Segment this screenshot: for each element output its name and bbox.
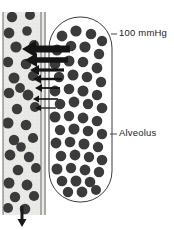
red-blood-cell <box>12 104 22 114</box>
diffusion-arrow-shaft <box>42 87 60 89</box>
red-blood-cell <box>24 152 34 162</box>
red-blood-cell <box>28 133 38 143</box>
oxygen-molecule <box>70 150 81 161</box>
oxygen-molecule <box>55 99 66 110</box>
red-blood-cell <box>7 12 17 22</box>
oxygen-molecule <box>55 125 65 135</box>
red-blood-cell <box>15 83 25 93</box>
pulmonary-capillary <box>3 10 47 227</box>
oxygen-molecule <box>96 77 106 87</box>
diffusion-arrow-shaft <box>39 98 58 100</box>
oxygen-molecule <box>97 155 108 166</box>
alveolus-label: Alveolus <box>119 127 157 138</box>
diffusion-arrow-shaft <box>37 57 68 63</box>
oxygen-molecule <box>50 112 61 123</box>
oxygen-molecule <box>94 49 104 59</box>
oxygen-molecule <box>93 142 103 152</box>
red-blood-cell <box>31 163 41 173</box>
red-blood-cell <box>9 73 20 84</box>
red-blood-cell <box>29 191 39 201</box>
red-blood-cell <box>4 178 15 189</box>
oxygen-molecule <box>97 36 107 46</box>
label-pressure-group: 100 mmHg <box>111 27 167 38</box>
oxygen-molecule <box>66 163 76 173</box>
oxygen-molecule <box>79 41 90 52</box>
oxygen-molecule <box>63 187 73 197</box>
oxygen-molecule <box>65 137 76 148</box>
alveolus-sac <box>49 17 112 202</box>
diffusion-arrow-shaft <box>39 68 64 71</box>
red-blood-cell <box>16 142 26 152</box>
oxygen-molecule <box>83 126 94 137</box>
oxygen-molecule <box>71 176 82 187</box>
oxygen-molecule <box>57 176 68 187</box>
oxygen-molecule <box>84 152 94 162</box>
oxygen-molecule <box>78 57 89 68</box>
oxygen-molecule <box>80 165 91 176</box>
red-blood-cell <box>21 120 32 131</box>
oxygen-molecule <box>82 72 93 83</box>
red-blood-cell <box>25 10 35 20</box>
red-blood-cell <box>5 150 16 161</box>
oxygen-molecule <box>64 84 75 95</box>
oxygen-molecule <box>91 185 101 195</box>
oxygen-molecule <box>69 97 80 108</box>
diffusion-arrow-shaft <box>36 46 70 53</box>
oxygen-molecule <box>51 138 62 149</box>
oxygen-molecule <box>92 116 103 127</box>
oxygen-molecule <box>86 29 97 40</box>
flow-arrow-shaft <box>21 206 24 219</box>
oxygen-molecule <box>78 86 89 97</box>
red-blood-cell <box>4 28 15 39</box>
red-blood-cell <box>3 57 13 67</box>
oxygen-molecule <box>92 63 103 74</box>
oxygen-molecule <box>54 72 64 82</box>
diffusion-arrow-shaft <box>41 78 62 80</box>
oxygen-molecule <box>77 187 88 198</box>
diffusion-arrow-shaft <box>41 107 56 108</box>
oxygen-molecule <box>68 70 79 81</box>
flow-arrow-head <box>18 219 27 227</box>
red-blood-cell <box>22 180 33 191</box>
oxygen-molecule <box>64 111 74 121</box>
alveolar-gas-exchange-figure: 100 mmHg Alveolus <box>0 0 174 230</box>
red-blood-cell <box>23 90 34 101</box>
oxygen-molecule <box>83 99 93 109</box>
red-blood-cell <box>4 88 15 99</box>
oxygen-molecule <box>78 113 89 124</box>
red-blood-cell <box>10 41 21 52</box>
diagram-canvas: 100 mmHg Alveolus <box>0 0 174 230</box>
oxygen-molecule <box>97 129 107 139</box>
red-blood-cell <box>22 26 32 36</box>
oxygen-molecule <box>94 167 104 177</box>
oxygen-molecule <box>70 25 81 36</box>
red-blood-cell <box>3 203 13 213</box>
oxygen-molecule <box>92 90 102 100</box>
red-blood-cell <box>13 165 24 176</box>
oxygen-molecule <box>56 151 67 162</box>
oxygen-molecule <box>97 103 108 114</box>
oxygen-molecule <box>69 124 80 135</box>
pressure-label: 100 mmHg <box>119 27 167 38</box>
oxygen-molecule <box>79 139 90 150</box>
red-blood-cell <box>10 192 20 202</box>
red-blood-cell <box>3 118 14 129</box>
oxygen-molecule <box>52 164 63 175</box>
label-alveolus-group: Alveolus <box>110 127 157 138</box>
oxygen-molecule <box>57 31 68 42</box>
